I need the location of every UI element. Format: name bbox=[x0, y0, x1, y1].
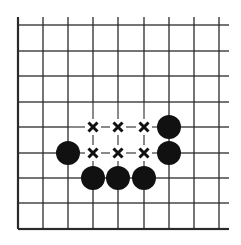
black-stone-icon bbox=[56, 141, 80, 165]
black-stone-icon bbox=[106, 166, 130, 190]
x-mark-icon bbox=[89, 149, 98, 158]
x-mark-icon bbox=[140, 123, 149, 132]
x-mark-icon bbox=[89, 123, 98, 132]
board-grid bbox=[18, 17, 229, 229]
black-stone-icon bbox=[81, 166, 105, 190]
black-stone-icon bbox=[157, 141, 181, 165]
go-board-diagram bbox=[0, 0, 241, 245]
black-stone-icon bbox=[157, 115, 181, 139]
x-mark-icon bbox=[114, 149, 123, 158]
x-mark-icon bbox=[114, 123, 123, 132]
x-mark-icon bbox=[140, 149, 149, 158]
black-stone-icon bbox=[132, 166, 156, 190]
